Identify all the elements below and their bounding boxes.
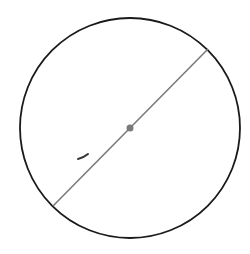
circle-diagram: [0, 0, 250, 254]
diagram-canvas: [0, 0, 250, 254]
center-point: [127, 125, 134, 132]
label-mark: [78, 154, 88, 159]
